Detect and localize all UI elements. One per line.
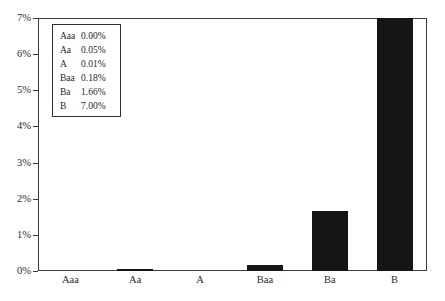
bar (117, 269, 153, 271)
x-tick-label: Aaa (38, 275, 103, 286)
legend-row: Aaa0.00% (53, 29, 120, 43)
x-tick-label: Aa (103, 275, 168, 286)
legend-row: Aa0.05% (53, 43, 120, 57)
legend-value: 0.01% (81, 57, 106, 71)
x-tick-label: Baa (233, 275, 298, 286)
bar (312, 211, 348, 271)
legend-value: 1.66% (81, 85, 106, 99)
legend-row: Ba1.66% (53, 85, 120, 99)
bar (377, 18, 413, 271)
legend-key: Aa (60, 43, 81, 57)
legend-key: B (60, 99, 81, 113)
legend-value: 0.18% (81, 71, 106, 85)
x-tick-label: Ba (297, 275, 362, 286)
x-tick-label: B (362, 275, 427, 286)
legend: Aaa0.00%Aa0.05%A0.01%Baa0.18%Ba1.66%B7.0… (52, 24, 121, 117)
x-tick-label: A (168, 275, 233, 286)
legend-value: 0.05% (81, 43, 106, 57)
bar (247, 265, 283, 272)
legend-key: A (60, 57, 81, 71)
bar-chart: 7% 6% 5% 4% 3% 2% 1% 0% Aaa0.00%Aa0.05%A… (0, 0, 445, 301)
legend-row: Baa0.18% (53, 71, 120, 85)
x-axis: AaaAaABaaBaB (38, 275, 427, 297)
y-axis-ticks (0, 0, 38, 301)
legend-key: Ba (60, 85, 81, 99)
legend-row: A0.01% (53, 57, 120, 71)
legend-value: 0.00% (81, 29, 106, 43)
legend-key: Baa (60, 71, 81, 85)
legend-value: 7.00% (81, 99, 106, 113)
legend-key: Aaa (60, 29, 81, 43)
y-tick-mark (33, 271, 38, 272)
legend-row: B7.00% (53, 99, 120, 113)
